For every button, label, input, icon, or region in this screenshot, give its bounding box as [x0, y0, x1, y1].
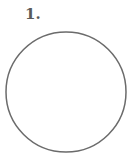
circle-shape: [6, 32, 126, 152]
circle-diagram: [0, 0, 131, 164]
